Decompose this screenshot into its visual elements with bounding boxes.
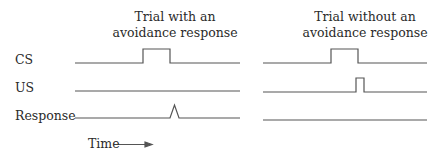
response-trace-with-avoidance [75, 105, 240, 118]
timing-traces [0, 0, 438, 155]
cs-trace-with-avoidance [75, 49, 240, 63]
time-arrow-icon [114, 142, 152, 147]
time-axis-label: Time [88, 136, 120, 151]
us-trace-without-avoidance [263, 78, 427, 92]
cs-trace-without-avoidance [263, 49, 427, 63]
